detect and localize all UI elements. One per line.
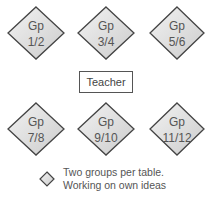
legend-line-1: Two groups per table. (63, 166, 166, 179)
table-diamond-icon (150, 103, 204, 155)
legend-line-2: Working on own ideas (63, 179, 166, 192)
group-label-line2: 7/8 (28, 131, 45, 145)
table-diamond-icon (150, 7, 204, 59)
group-table-11-12: Gp 11/12 (150, 103, 204, 155)
legend-diamond (40, 172, 54, 186)
group-label-line1: Gp (169, 19, 185, 33)
legend: Two groups per table. Working on own ide… (63, 166, 166, 192)
group-label-line2: 5/6 (169, 35, 186, 49)
teacher-desk: Teacher (79, 71, 133, 93)
group-table-7-8: Gp 7/8 (8, 103, 64, 155)
teacher-label: Teacher (86, 76, 125, 88)
table-diamond-icon (78, 7, 134, 59)
table-diamond-icon (8, 7, 64, 59)
table-diamond-icon (78, 103, 134, 155)
group-table-5-6: Gp 5/6 (150, 7, 204, 59)
group-table-9-10: Gp 9/10 (78, 103, 134, 155)
group-table-3-4: Gp 3/4 (78, 7, 134, 59)
group-label-line2: 11/12 (162, 131, 191, 145)
group-label-line1: Gp (98, 115, 114, 129)
diamond-table-icon (40, 172, 54, 186)
group-label-line1: Gp (169, 115, 185, 129)
group-label-line2: 1/2 (28, 35, 45, 49)
group-label-line1: Gp (98, 19, 114, 33)
group-label-line1: Gp (28, 19, 44, 33)
table-diamond-icon (8, 103, 64, 155)
group-label-line1: Gp (28, 115, 44, 129)
group-label-line2: 9/10 (94, 131, 118, 145)
group-table-1-2: Gp 1/2 (8, 7, 64, 59)
group-label-line2: 3/4 (98, 35, 115, 49)
